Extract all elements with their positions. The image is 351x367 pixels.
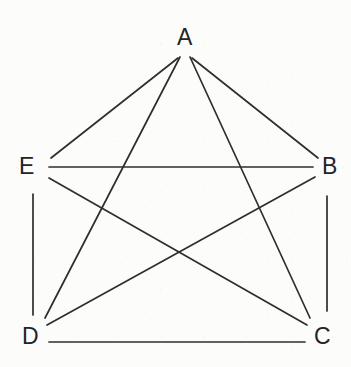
vertex-label-b: B [322, 155, 337, 178]
vertex-label-e: E [19, 155, 34, 178]
graph-edge-ac [190, 57, 310, 318]
edges-group [33, 57, 327, 342]
graph-edge-ae [51, 58, 178, 158]
vertex-label-d: D [22, 325, 39, 348]
graph-canvas [0, 0, 351, 367]
complete-graph-figure: ABCDE [0, 0, 351, 367]
vertex-label-c: C [314, 325, 331, 348]
graph-edge-ab [192, 58, 318, 158]
vertex-label-a: A [177, 26, 192, 49]
